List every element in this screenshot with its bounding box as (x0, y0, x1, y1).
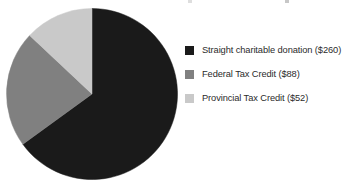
pie-slice-group (6, 9, 177, 180)
scan-speck (188, 0, 192, 3)
legend-label-provincial-tax-credit: Provincial Tax Credit ($52) (202, 93, 308, 104)
legend-item-federal-tax-credit[interactable]: Federal Tax Credit ($88) (185, 62, 358, 86)
legend-item-straight-charitable-donation[interactable]: Straight charitable donation ($260) (185, 38, 358, 62)
legend-swatch-straight-charitable-donation (185, 46, 194, 55)
legend-swatch-federal-tax-credit (185, 70, 194, 79)
scan-speck (285, 0, 289, 3)
pie-chart-figure: Straight charitable donation ($260) Fede… (0, 0, 358, 188)
chart-legend: Straight charitable donation ($260) Fede… (185, 38, 358, 110)
legend-label-straight-charitable-donation: Straight charitable donation ($260) (202, 45, 341, 56)
cropped-edge-artifact (0, 0, 358, 6)
legend-label-federal-tax-credit: Federal Tax Credit ($88) (202, 69, 300, 80)
legend-swatch-provincial-tax-credit (185, 94, 194, 103)
legend-item-provincial-tax-credit[interactable]: Provincial Tax Credit ($52) (185, 86, 358, 110)
pie-svg (6, 8, 178, 180)
pie-chart-plot (6, 8, 178, 180)
